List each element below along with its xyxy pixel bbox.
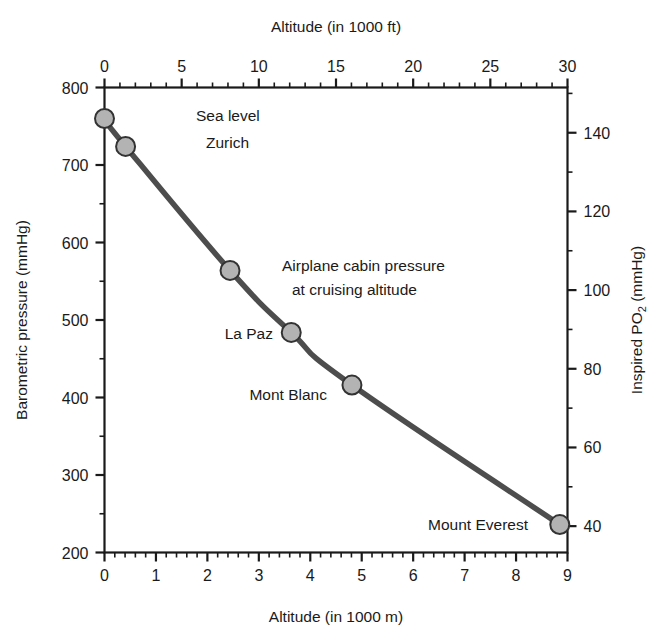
bottom-axis-tick-label: 9 — [563, 567, 572, 584]
right-axis-tick-label: 140 — [584, 125, 611, 142]
bottom-axis-tick-label: 4 — [306, 567, 315, 584]
left-axis-tick-label: 400 — [62, 390, 89, 407]
top-axis-tick-label: 30 — [559, 58, 577, 75]
left-axis-tick-label: 500 — [62, 312, 89, 329]
right-axis-title-part1: Inspired PO — [628, 312, 645, 394]
top-axis-ticks — [105, 79, 568, 88]
chart-figure: 051015202530 Altitude (in 1000 ft) 01234… — [0, 0, 664, 634]
altitude-pressure-chart: 051015202530 Altitude (in 1000 ft) 01234… — [0, 0, 664, 634]
left-axis-ticks — [96, 88, 105, 553]
top-axis-tick-label: 5 — [177, 58, 186, 75]
right-axis-title-part2: (mmHg) — [628, 246, 645, 306]
bottom-axis-tick-labels: 0123456789 — [100, 567, 572, 584]
top-axis-tick-label: 15 — [327, 58, 345, 75]
sea-level-label: Sea level — [196, 107, 260, 124]
top-axis-tick-labels: 051015202530 — [100, 58, 576, 75]
bottom-axis-tick-label: 2 — [203, 567, 212, 584]
left-axis-tick-label: 600 — [62, 235, 89, 252]
pressure-curve — [105, 119, 560, 525]
bottom-axis-tick-label: 1 — [151, 567, 160, 584]
airplane-label-line1: Airplane cabin pressure — [282, 257, 445, 274]
airplane-label-line2: at cruising altitude — [292, 281, 417, 298]
data-point-airplane-cabin-pressure-at-cruising-altitude — [221, 261, 240, 280]
top-axis-tick-label: 25 — [481, 58, 499, 75]
top-axis-tick-label: 10 — [250, 58, 268, 75]
data-point-mount-everest — [550, 515, 569, 534]
right-axis-title: Inspired PO2 (mmHg) — [628, 246, 648, 394]
top-axis-title: Altitude (in 1000 ft) — [271, 18, 401, 35]
data-point-markers — [95, 109, 569, 534]
lapaz-label: La Paz — [225, 325, 273, 342]
top-axis-tick-label: 0 — [100, 58, 109, 75]
left-axis-title: Barometric pressure (mmHg) — [13, 220, 30, 420]
bottom-axis-tick-label: 5 — [357, 567, 366, 584]
top-axis-tick-label: 20 — [404, 58, 422, 75]
montblanc-label: Mont Blanc — [249, 386, 327, 403]
right-axis-tick-label: 40 — [584, 518, 602, 535]
right-axis-tick-label: 100 — [584, 282, 611, 299]
bottom-axis-tick-label: 6 — [409, 567, 418, 584]
left-axis-tick-label: 800 — [62, 80, 89, 97]
left-axis-tick-label: 700 — [62, 157, 89, 174]
left-axis-tick-labels: 200300400500600700800 — [62, 80, 89, 562]
bottom-axis-tick-label: 3 — [254, 567, 263, 584]
bottom-axis-title: Altitude (in 1000 m) — [269, 608, 403, 625]
right-axis-tick-label: 120 — [584, 203, 611, 220]
everest-label: Mount Everest — [428, 516, 529, 533]
data-point-la-paz — [282, 323, 301, 342]
bottom-axis-tick-label: 7 — [460, 567, 469, 584]
bottom-axis-tick-label: 8 — [512, 567, 521, 584]
bottom-axis-tick-label: 0 — [100, 567, 109, 584]
right-axis-tick-label: 80 — [584, 361, 602, 378]
svg-text:Inspired PO2 (mmHg): Inspired PO2 (mmHg) — [628, 246, 648, 394]
left-axis-tick-label: 300 — [62, 467, 89, 484]
right-axis-tick-label: 60 — [584, 439, 602, 456]
right-axis-tick-labels: 406080100120140 — [584, 125, 611, 535]
zurich-label: Zurich — [206, 134, 249, 151]
data-point-sea-level — [95, 109, 114, 128]
data-point-mont-blanc — [342, 376, 361, 395]
right-axis-ticks — [568, 93, 577, 526]
bottom-axis-ticks — [105, 553, 568, 562]
left-axis-tick-label: 200 — [62, 545, 89, 562]
data-point-zurich — [116, 137, 135, 156]
